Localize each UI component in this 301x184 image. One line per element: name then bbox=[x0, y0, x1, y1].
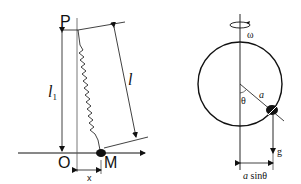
rotating-hoop-figure: ω θ a g a sinθ bbox=[198, 14, 284, 181]
label-P: P bbox=[60, 13, 71, 30]
label-a: a bbox=[259, 89, 264, 100]
label-theta: θ bbox=[241, 95, 246, 106]
label-M: M bbox=[104, 154, 117, 171]
label-l: l bbox=[128, 71, 133, 88]
label-omega: ω bbox=[247, 29, 254, 40]
label-x: x bbox=[87, 173, 92, 183]
label-asintheta: a sinθ bbox=[243, 170, 267, 181]
label-l1: l1 bbox=[48, 83, 57, 102]
physics-diagram: P O M l1 l x ω θ a g a sinθ bbox=[0, 0, 301, 184]
spring-pendulum-figure: P O M l1 l x bbox=[18, 13, 148, 183]
theta-arc bbox=[240, 90, 246, 93]
spring bbox=[78, 30, 100, 150]
label-O: O bbox=[58, 154, 70, 171]
label-g: g bbox=[277, 146, 282, 157]
l-dimension-arrow bbox=[114, 27, 136, 137]
